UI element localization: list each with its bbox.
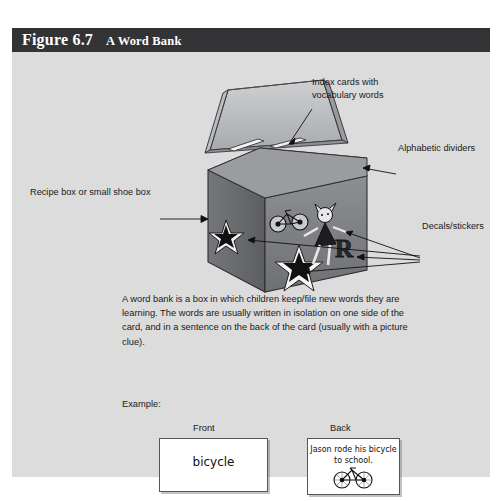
figure-title: A Word Bank — [106, 34, 182, 49]
back-card-bicycle-icon — [331, 467, 377, 489]
back-index-card: Jason rode his bicycle to school. — [307, 438, 400, 495]
back-card-sentence: Jason rode his bicycle to school. — [308, 444, 399, 466]
callout-index-cards: Index cards with vocabulary words — [312, 76, 384, 101]
front-card-word: bicycle — [160, 455, 267, 469]
figure-header-bar: Figure 6.7 A Word Bank — [12, 28, 490, 52]
callout-alphabetic-dividers: Alphabetic dividers — [398, 142, 475, 155]
callout-recipe-box: Recipe box or small shoe box — [30, 186, 151, 199]
figure-panel: Figure 6.7 A Word Bank — [12, 28, 490, 477]
back-card-label: Back — [330, 423, 351, 433]
figure-number: Figure 6.7 — [22, 31, 93, 49]
description-paragraph: A word bank is a box in which children k… — [122, 292, 422, 349]
word-bank-illustration: ABCDE — [12, 52, 490, 302]
callout-decals-stickers: Decals/stickers — [422, 220, 484, 233]
front-card-label: Front — [193, 423, 215, 433]
example-label: Example: — [122, 399, 161, 409]
front-index-card: bicycle — [159, 438, 268, 492]
